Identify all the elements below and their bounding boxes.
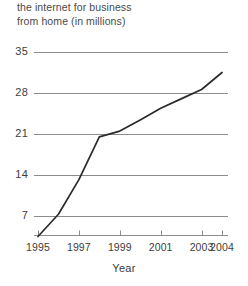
y-tick-label-14: 14 (2, 168, 28, 180)
gridline-group (34, 53, 228, 217)
x-tick-label-1999: 1999 (103, 241, 137, 253)
data-line-series-1 (38, 73, 222, 237)
x-tick-label-2004: 2004 (205, 241, 239, 253)
chart-figure: the internet for business from home (in … (0, 0, 248, 286)
x-axis-title: Year (0, 262, 248, 274)
x-tick-label-1995: 1995 (21, 241, 55, 253)
y-tick-label-21: 21 (2, 127, 28, 139)
x-tick-label-2001: 2001 (144, 241, 178, 253)
y-tick-label-28: 28 (2, 86, 28, 98)
x-tick-label-1997: 1997 (62, 241, 96, 253)
y-tick-label-7: 7 (2, 209, 28, 221)
y-tick-label-35: 35 (2, 45, 28, 57)
x-tick-group (39, 231, 223, 236)
